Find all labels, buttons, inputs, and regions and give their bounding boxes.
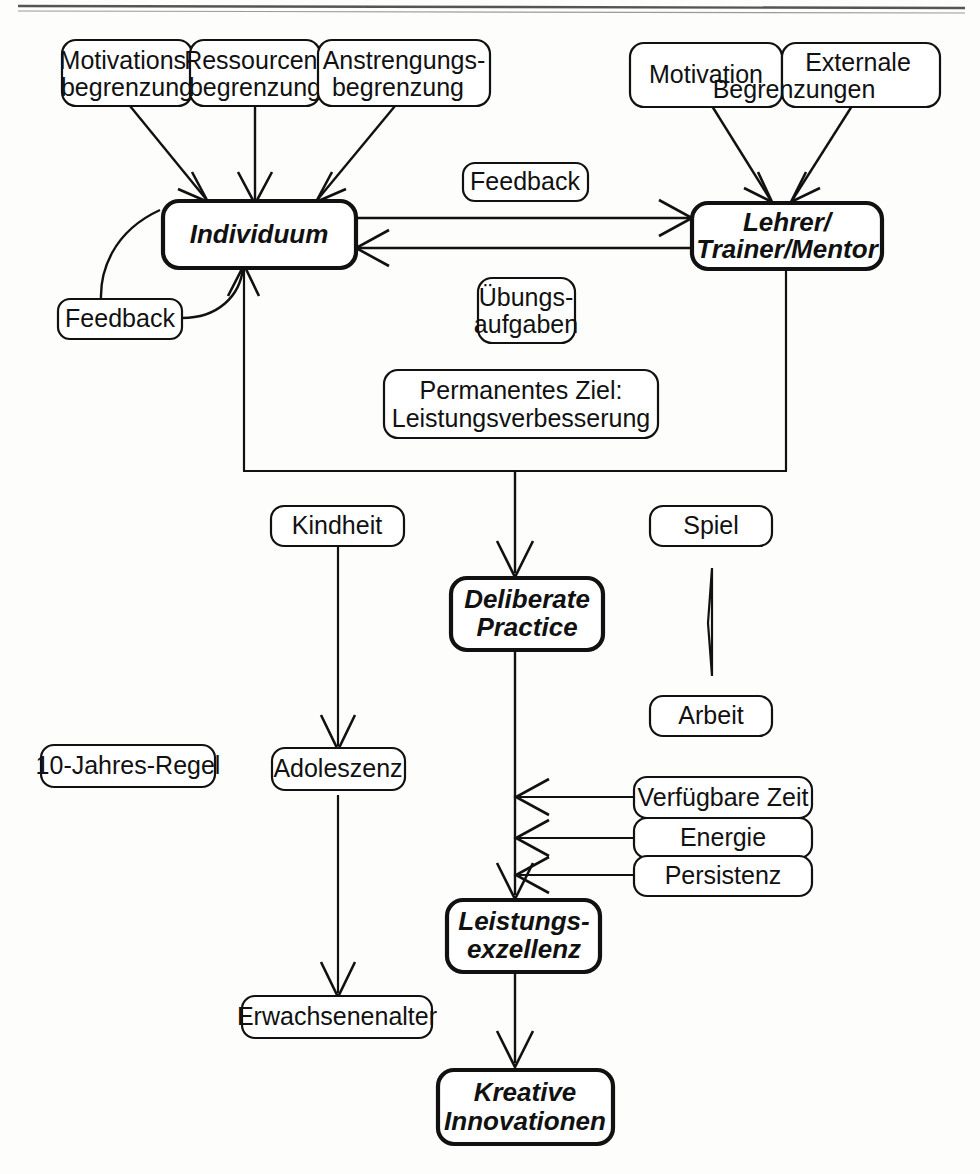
node-individuum-label: Individuum [190, 219, 329, 249]
node-zehn-jahres-regel-label: 10-Jahres-Regel [36, 751, 221, 779]
node-persistenz-label: Persistenz [665, 861, 782, 889]
node-kreative-innovationen-line1: Kreative [474, 1077, 577, 1107]
node-spiel-label: Spiel [683, 511, 739, 539]
node-uebungsaufgaben-line1: Übungs- [479, 283, 574, 311]
edge-kindheit-to-adoleszenz [321, 545, 355, 750]
node-lehrer-line2: Trainer/Mentor [696, 234, 879, 264]
edge-persistenz-to-main-line [516, 857, 636, 893]
node-feedback-top-label: Feedback [470, 167, 580, 195]
node-zehn-jahres-regel[interactable]: 10-Jahres-Regel [36, 745, 221, 787]
node-motivationsbegrenzung-line1: Motivations- [60, 46, 195, 74]
node-energie[interactable]: Energie [634, 818, 812, 858]
node-deliberate-practice-line1: Deliberate [464, 584, 590, 614]
node-lehrer-trainer-mentor[interactable]: Lehrer/ Trainer/Mentor [692, 203, 882, 269]
edge-lehrer-to-individuum [356, 230, 690, 266]
edge-externale-begrenzungen-to-lehrer [791, 106, 852, 202]
node-lehrer-line1: Lehrer/ [743, 207, 834, 237]
node-kindheit-label: Kindheit [292, 511, 382, 539]
node-kindheit[interactable]: Kindheit [271, 506, 404, 546]
edge-individuum-to-feedback-left [101, 210, 160, 300]
edge-motivationsbegrenzung-to-individuum [130, 106, 208, 202]
node-leistungsexzellenz-line2: exzellenz [467, 934, 581, 964]
node-motivationsbegrenzung[interactable]: Motivations- begrenzung [60, 40, 195, 106]
node-leistungsexzellenz[interactable]: Leistungs- exzellenz [447, 900, 600, 972]
edge-ressourcenbegrenzung-to-individuum [238, 106, 272, 204]
node-uebungsaufgaben-line2: aufgaben [474, 310, 578, 338]
node-feedback-left[interactable]: Feedback [58, 299, 182, 339]
node-permanentes-ziel[interactable]: Permanentes Ziel: Leistungsverbesserung [384, 370, 658, 438]
edge-deliberate-practice-to-leistungsexzellenz [497, 650, 533, 899]
node-feedback-left-label: Feedback [65, 304, 175, 332]
node-ressourcenbegrenzung-line1: Ressourcen- [184, 46, 326, 74]
node-permanentes-ziel-line2: Leistungsverbesserung [392, 404, 651, 432]
node-energie-label: Energie [680, 823, 766, 851]
node-anstrengungsbegrenzung-line1: Anstrengungs- [323, 46, 486, 74]
node-spiel[interactable]: Spiel [650, 506, 772, 546]
node-ressourcenbegrenzung-line2: begrenzung [189, 73, 321, 101]
node-erwachsenenalter[interactable]: Erwachsenenalter [237, 996, 437, 1038]
node-motivationsbegrenzung-line2: begrenzung [61, 73, 193, 101]
node-arbeit-label: Arbeit [678, 701, 743, 729]
node-deliberate-practice[interactable]: Deliberate Practice [451, 578, 603, 650]
node-externale-begrenzungen-line2: Begrenzungen [713, 75, 876, 103]
node-adoleszenz[interactable]: Adoleszenz [272, 748, 405, 790]
node-anstrengungsbegrenzung[interactable]: Anstrengungs- begrenzung [318, 40, 490, 106]
node-verfuegbare-zeit[interactable]: Verfügbare Zeit [634, 777, 812, 818]
node-individuum[interactable]: Individuum [163, 201, 356, 268]
edge-verfuegbare-zeit-to-main-line [516, 779, 636, 815]
node-uebungsaufgaben[interactable]: Übungs- aufgaben [474, 278, 578, 343]
node-kreative-innovationen-line2: Innovationen [444, 1106, 606, 1136]
node-adoleszenz-label: Adoleszenz [273, 754, 402, 782]
page-top-rule-shadow [18, 11, 965, 13]
node-feedback-top[interactable]: Feedback [463, 163, 588, 201]
edge-adoleszenz-to-erwachsenenalter [321, 795, 355, 997]
edge-energie-to-main-line [516, 820, 636, 856]
node-arbeit[interactable]: Arbeit [650, 696, 772, 736]
node-anstrengungsbegrenzung-line2: begrenzung [332, 73, 464, 101]
edge-motivation-to-lehrer [712, 106, 772, 202]
edge-anstrengungsbegrenzung-to-individuum [316, 106, 395, 202]
node-deliberate-practice-line2: Practice [476, 612, 577, 642]
page-top-rule [18, 6, 965, 8]
node-ressourcenbegrenzung[interactable]: Ressourcen- begrenzung [184, 40, 326, 106]
edge-leistungsexzellenz-to-kreative-innovationen [497, 960, 533, 1067]
edge-feedback-left-to-individuum [182, 265, 259, 318]
node-kreative-innovationen[interactable]: Kreative Innovationen [438, 1070, 613, 1144]
node-verfuegbare-zeit-label: Verfügbare Zeit [638, 783, 809, 811]
edge-individuum-to-lehrer [356, 200, 692, 236]
spiel-arbeit-triangle-icon [708, 568, 712, 676]
node-leistungsexzellenz-line1: Leistungs- [458, 906, 589, 936]
node-permanentes-ziel-line1: Permanentes Ziel: [420, 376, 623, 404]
diagram-page: Motivations- begrenzung Ressourcen- begr… [0, 0, 980, 1174]
node-persistenz[interactable]: Persistenz [634, 856, 812, 896]
node-externale-begrenzungen-line1: Externale [805, 48, 911, 76]
node-erwachsenenalter-label: Erwachsenenalter [237, 1002, 437, 1030]
flow-diagram: Motivations- begrenzung Ressourcen- begr… [0, 0, 980, 1174]
